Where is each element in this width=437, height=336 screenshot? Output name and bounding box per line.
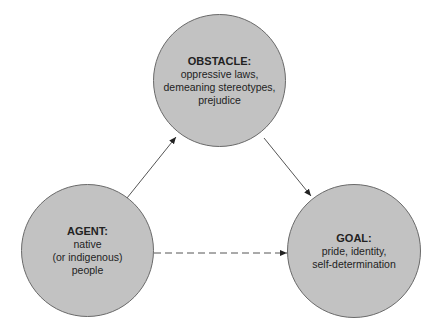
obstacle-line-2: demeaning stereotypes, [163,81,275,94]
goal-node: GOAL: pride, identity, self-determinatio… [287,184,421,318]
agent-title: AGENT: [67,225,108,238]
goal-title: GOAL: [336,232,371,245]
agent-line-1: native [73,238,101,251]
goal-line-1: pride, identity, [322,245,387,258]
agent-node: AGENT: native (or indigenous) people [21,184,154,317]
obstacle-node: OBSTACLE: oppressive laws, demeaning ste… [153,14,286,147]
obstacle-line-3: prejudice [198,94,241,107]
obstacle-title: OBSTACLE: [188,55,251,68]
edge-obstacle-to-goal [264,138,311,196]
actantial-diagram: OBSTACLE: oppressive laws, demeaning ste… [0,0,437,336]
agent-line-3: people [72,264,104,277]
goal-line-2: self-determination [312,258,395,271]
edge-agent-to-obstacle [127,137,176,198]
obstacle-line-1: oppressive laws, [181,68,259,81]
agent-line-2: (or indigenous) [52,251,122,264]
